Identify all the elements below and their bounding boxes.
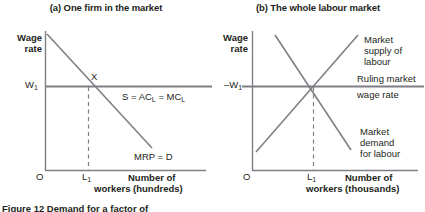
panel-whole-labour-market: (b) The whole labour market Wage rate –W…	[212, 0, 424, 212]
panel-a-x-axis-label-line1: Number of	[128, 172, 176, 183]
panel-b-quantity-tick-label: L1	[307, 172, 316, 184]
panel-b-supply-label-line3: labour	[364, 57, 390, 68]
panel-b-wage-tick-text: W	[229, 79, 238, 90]
panel-b-x-axis-label-line1: Number of	[345, 172, 393, 183]
panel-a-origin-label: O	[36, 172, 43, 183]
panel-a-wage-tick-sub: 1	[34, 84, 38, 91]
panel-a-supply-label-sub2: L	[181, 96, 185, 103]
panel-b-wage-rate-label-line2: wage rate	[357, 90, 399, 101]
panel-b-wage-rate-label-line1: Ruling market	[357, 74, 416, 85]
panel-b-x-axis-label-line2: workers (thousands)	[306, 183, 399, 194]
panel-b-wage-tick-sub: 1	[238, 84, 242, 91]
panel-a-demand-label: MRP = D	[134, 152, 173, 163]
panel-one-firm: (a) One firm in the market Wage rate W1 …	[0, 0, 212, 212]
panel-a-supply-label: S = ACL = MCL	[122, 92, 185, 104]
panel-a-x-axis-label-line2: workers (hundreds)	[94, 183, 183, 194]
panel-a-supply-label-part2: = MC	[156, 91, 182, 102]
panel-a-y-axis-label-line1: Wage	[2, 32, 42, 43]
panel-a-y-axis-label-line2: rate	[2, 43, 42, 54]
panel-a-supply-label-part1: S = AC	[122, 91, 152, 102]
panel-a-quantity-tick-sub: 1	[87, 176, 91, 183]
figure-caption: Figure 12 Demand for a factor of	[2, 203, 148, 212]
panel-b-origin-label: O	[243, 172, 250, 183]
panel-a-wage-tick-label: W1	[25, 80, 38, 92]
panel-b-demand-label-line3: for labour	[360, 149, 400, 160]
panel-b-supply-curve	[256, 35, 358, 152]
panel-b-y-axis-label-line1: Wage	[208, 32, 248, 43]
panel-b-wage-tick-label: –W1	[224, 80, 242, 92]
figure-container: (a) One firm in the market Wage rate W1 …	[0, 0, 425, 212]
panel-a-quantity-tick-label: L1	[82, 172, 91, 184]
panel-b-demand-label-line1: Market	[360, 127, 389, 138]
panel-a-wage-tick-text: W	[25, 79, 34, 90]
panel-a-supply-label-sub1: L	[152, 96, 156, 103]
panel-b-quantity-tick-sub: 1	[312, 176, 316, 183]
panel-b-demand-label-line2: demand	[360, 138, 394, 149]
panel-a-equilibrium-point-label: X	[91, 72, 97, 83]
panel-b-y-axis-label-line2: rate	[208, 43, 248, 54]
panel-b-supply-label-line2: supply of	[364, 46, 402, 57]
panel-b-supply-label-line1: Market	[364, 35, 393, 46]
